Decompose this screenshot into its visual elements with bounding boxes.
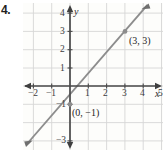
y-tick-label-3: 3 — [60, 27, 65, 37]
x-tick-label-3: 3 — [122, 89, 127, 99]
coordinate-plane: −2 −1 1 2 3 4 5 4 3 2 1 −1 −3 y x (3, 3)… — [23, 3, 163, 150]
x-tick-label-2: 2 — [103, 89, 108, 99]
data-point-marker-3-3 — [123, 29, 128, 34]
x-tick-label--2: −2 — [28, 89, 38, 99]
y-axis-label: y — [74, 7, 78, 17]
y-tick-label--1: −1 — [56, 100, 66, 110]
plotted-line — [24, 4, 150, 148]
y-tick-label--3: −3 — [56, 136, 66, 146]
y-axis — [67, 5, 73, 149]
point-label-0-neg1: (0, −1) — [72, 108, 99, 118]
y-tick-label-2: 2 — [60, 45, 65, 55]
y-tick-label-1: 1 — [60, 64, 65, 74]
problem-number: 4. — [1, 3, 10, 17]
x-tick-label--1: −1 — [46, 89, 56, 99]
point-label-3-3: (3, 3) — [129, 36, 151, 46]
figure-container: 4. — [0, 0, 166, 153]
x-tick-label-1: 1 — [85, 89, 90, 99]
grid-horizontal — [23, 13, 163, 141]
graph-svg — [23, 3, 163, 150]
y-tick-label-4: 4 — [60, 9, 65, 19]
grid-vertical — [33, 3, 161, 150]
x-axis-label: x — [155, 89, 159, 99]
x-tick-label-4: 4 — [140, 89, 145, 99]
data-point-marker-0-neg1 — [68, 102, 73, 107]
